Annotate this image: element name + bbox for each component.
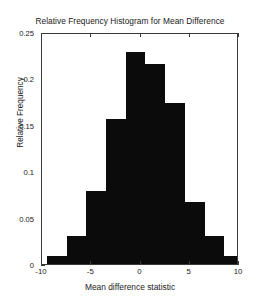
x-axis-tick-label: 10: [234, 267, 243, 276]
x-axis-tick-mark-top: [90, 33, 91, 37]
x-axis-tick-mark-bottom: [238, 261, 239, 265]
x-axis-tick-mark-top: [41, 33, 42, 37]
histogram-bar: [145, 64, 165, 264]
chart-title: Relative Frequency Histogram for Mean Di…: [0, 16, 260, 26]
histogram-bar: [47, 256, 67, 264]
x-axis-tick-label: 0: [137, 267, 141, 276]
y-axis-tick-labels: 00.050.10.150.20.25: [0, 33, 39, 265]
histogram-bar: [106, 119, 126, 264]
x-axis-tick-mark-top: [140, 33, 141, 37]
histogram-bar: [165, 103, 185, 264]
y-axis-tick-mark: [41, 265, 45, 266]
x-axis-tick-label: -5: [87, 267, 94, 276]
x-axis-tick-mark-bottom: [140, 261, 141, 265]
histogram-bar: [185, 202, 205, 264]
histogram-bar: [205, 236, 225, 264]
x-axis-tick-mark-bottom: [90, 261, 91, 265]
histogram-figure: Relative Frequency Histogram for Mean Di…: [0, 0, 260, 305]
x-axis-title: Mean difference statistic: [0, 282, 260, 292]
plot-area: [41, 33, 238, 265]
histogram-bar: [224, 256, 237, 264]
y-axis-tick-label: 0.25: [19, 29, 34, 38]
y-axis-tick-label: 0: [30, 261, 34, 270]
x-axis-tick-mark-top: [238, 33, 239, 37]
x-axis-tick-label: 5: [187, 267, 191, 276]
x-axis-tick-mark-top: [189, 33, 190, 37]
y-axis-tick-label: 0.15: [19, 121, 34, 130]
histogram-bar: [126, 52, 146, 264]
x-axis-tick-mark-bottom: [189, 261, 190, 265]
y-axis-tick-label: 0.2: [23, 75, 34, 84]
histogram-bar: [67, 236, 87, 264]
histogram-bar: [86, 191, 106, 264]
x-axis-tick-label: -10: [35, 267, 46, 276]
x-axis-tick-mark-bottom: [41, 261, 42, 265]
y-axis-tick-label: 0.1: [23, 168, 34, 177]
y-axis-tick-label: 0.05: [19, 214, 34, 223]
